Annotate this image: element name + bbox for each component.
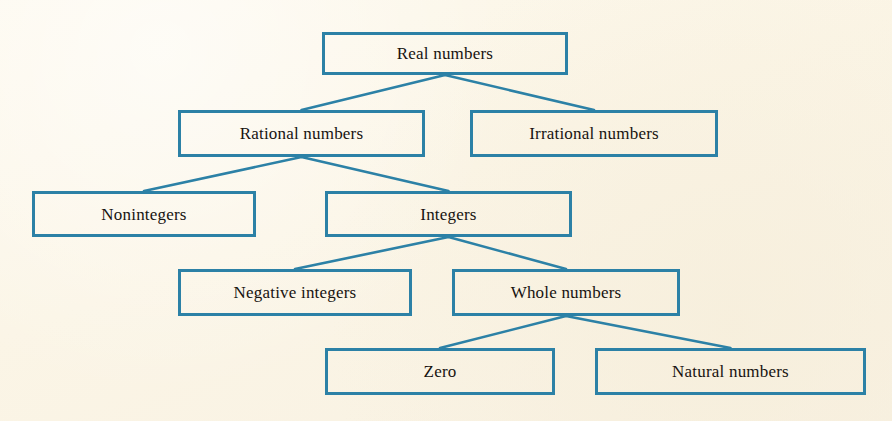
node-box-zero: Zero [325,348,555,395]
node-box-nonintegers: Nonintegers [32,191,256,237]
connector-whole-numbers-to-zero [440,316,566,348]
node-label-nonintegers: Nonintegers [101,206,186,223]
node-box-natural-numbers: Natural numbers [595,348,866,395]
node-label-natural-numbers: Natural numbers [672,363,789,380]
node-box-irrational-numbers: Irrational numbers [470,110,718,157]
node-label-zero: Zero [424,363,457,380]
node-label-rational-numbers: Rational numbers [240,125,364,142]
node-label-real-numbers: Real numbers [397,45,493,62]
node-box-rational-numbers: Rational numbers [178,110,425,157]
connector-rational-numbers-to-nonintegers [144,157,302,191]
connector-real-numbers-to-irrational-numbers [445,75,594,110]
connector-whole-numbers-to-natural-numbers [566,316,731,348]
connector-integers-to-whole-numbers [449,237,567,269]
node-box-whole-numbers: Whole numbers [452,269,680,316]
connector-real-numbers-to-rational-numbers [302,75,446,110]
node-label-negative-integers: Negative integers [234,284,357,301]
node-label-whole-numbers: Whole numbers [511,284,622,301]
connector-rational-numbers-to-integers [302,157,449,191]
node-box-integers: Integers [325,191,572,237]
node-label-irrational-numbers: Irrational numbers [529,125,659,142]
number-system-diagram: Real numbersRational numbersIrrational n… [0,0,892,421]
node-label-integers: Integers [420,206,476,223]
connector-integers-to-negative-integers [295,237,449,269]
node-box-real-numbers: Real numbers [322,32,568,75]
node-box-negative-integers: Negative integers [178,269,412,316]
